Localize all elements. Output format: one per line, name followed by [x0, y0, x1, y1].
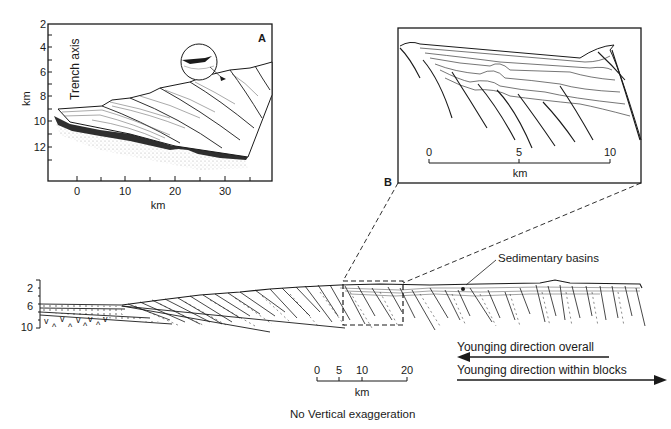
svg-text:20: 20 — [401, 364, 413, 376]
panel-a-label: A — [258, 32, 266, 44]
svg-text:v: v — [103, 314, 108, 324]
svg-text:10: 10 — [119, 185, 131, 197]
main-scale-bar: 0 5 10 20 km — [314, 364, 413, 398]
main-y-tick-labels: 2 6 10 — [21, 282, 33, 333]
decollement — [122, 306, 345, 328]
arrow-right-icon — [654, 375, 667, 385]
svg-text:8: 8 — [40, 90, 46, 102]
svg-text:2: 2 — [40, 18, 46, 30]
sedimentary-basins-leader — [466, 260, 496, 285]
panel-a-y-tick-labels: 2 4 6 8 10 12 — [34, 18, 46, 153]
svg-text:6: 6 — [40, 66, 46, 78]
younging-within-blocks-arrow: Younging direction within blocks — [457, 363, 667, 385]
svg-text:Younging direction overall: Younging direction overall — [457, 340, 594, 354]
svg-text:^: ^ — [52, 322, 57, 332]
panel-b-basin-fill — [420, 48, 630, 116]
svg-text:0: 0 — [314, 364, 320, 376]
svg-text:0: 0 — [74, 185, 80, 197]
panel-b-location-box — [343, 281, 403, 325]
svg-text:6: 6 — [27, 300, 33, 312]
panel-b-scale-bar: 0 5 10 km — [426, 146, 616, 179]
svg-text:v: v — [76, 315, 81, 325]
svg-text:v: v — [88, 314, 93, 324]
svg-text:5: 5 — [516, 146, 522, 158]
svg-text:0: 0 — [426, 146, 432, 158]
panel-a: A Trench axis km 2 4 6 8 10 12 0 10 20 3… — [20, 18, 272, 211]
trench-axis-label: Trench axis — [68, 38, 82, 100]
svg-text:Younging direction within bloc: Younging direction within blocks — [457, 363, 627, 377]
svg-text:^: ^ — [68, 322, 73, 332]
svg-text:km: km — [355, 386, 370, 398]
imbricate-thrusts — [128, 285, 645, 330]
svg-text:10: 10 — [356, 364, 368, 376]
svg-text:^: ^ — [96, 320, 101, 330]
panel-b: B 0 — [384, 28, 641, 188]
sedimentary-basins-label: Sedimentary basins — [498, 252, 599, 264]
svg-text:2: 2 — [27, 282, 33, 294]
panel-b-label: B — [384, 176, 392, 188]
svg-text:5: 5 — [336, 364, 342, 376]
zoom-connector-lines — [343, 183, 641, 283]
panel-a-y-axis-label: km — [20, 91, 32, 106]
svg-text:30: 30 — [219, 185, 231, 197]
basin-marker — [461, 287, 465, 291]
figure-canvas: A Trench axis km 2 4 6 8 10 12 0 10 20 3… — [0, 0, 671, 429]
svg-text:20: 20 — [169, 185, 181, 197]
panel-a-x-ticks — [77, 176, 250, 181]
svg-text:v: v — [60, 314, 65, 324]
trench-sediments — [40, 304, 270, 332]
main-section: 2 6 10 v^v ^v^ v^v — [21, 252, 667, 420]
svg-text:v: v — [44, 316, 49, 326]
svg-text:km: km — [513, 167, 528, 179]
panel-a-x-tick-labels: 0 10 20 30 — [74, 185, 231, 197]
svg-text:10: 10 — [21, 321, 33, 333]
svg-text:10: 10 — [604, 146, 616, 158]
no-vertical-exaggeration-note: No Vertical exaggeration — [290, 408, 415, 420]
panel-a-x-axis-label: km — [151, 199, 166, 211]
panel-b-thrust-slices — [400, 48, 640, 148]
younging-overall-arrow: Younging direction overall — [457, 340, 609, 362]
svg-text:10: 10 — [34, 115, 46, 127]
svg-text:4: 4 — [40, 41, 46, 53]
svg-text:12: 12 — [34, 141, 46, 153]
